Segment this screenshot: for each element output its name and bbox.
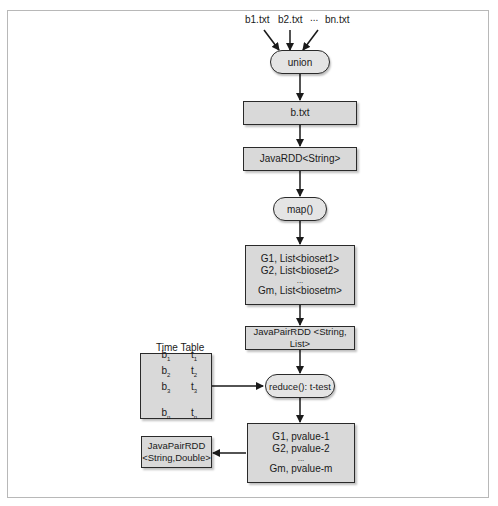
grouped-biosets-node: G1, List<bioset1> G2, List<bioset2> ... … (245, 245, 355, 305)
map-node: map() (273, 197, 327, 221)
time-table-t2: t2 (184, 365, 204, 381)
javapairrdd-node: JavaPairRDD <String, List> (245, 326, 355, 350)
reduce-label: reduce(): t-test (269, 381, 331, 392)
time-table-b3: b3 (148, 381, 184, 397)
javapairrdd-label: JavaPairRDD <String, List> (246, 326, 354, 350)
pvalues-node: G1, pvalue-1 G2, pvalue-2 ... Gm, pvalue… (247, 423, 355, 483)
javardd-label: JavaRDD<String> (260, 153, 341, 165)
reduce-node: reduce(): t-test (265, 374, 335, 398)
output-javapairrdd-node: JavaPairRDD <String,Double> (141, 436, 212, 468)
pvalues-line-m: Gm, pvalue-m (270, 463, 333, 475)
input-file-b2: b2.txt (278, 14, 302, 25)
union-node: union (270, 50, 330, 74)
pvalues-line-1: G1, pvalue-1 (272, 431, 329, 443)
union-label: union (288, 57, 312, 68)
time-table-b1: b1 (148, 349, 184, 365)
input-file-bn: bn.txt (325, 14, 349, 25)
time-table-t1: t1 (184, 349, 204, 365)
javardd-node: JavaRDD<String> (243, 147, 357, 171)
time-table-tn: tn (184, 407, 204, 423)
time-table-node: b1 t1 b2 t2 b3 t3 bn tn (140, 353, 212, 419)
map-label: map() (287, 204, 313, 215)
input-file-ellipsis: ... (310, 12, 318, 23)
output-line-1: JavaPairRDD (148, 440, 206, 452)
input-file-b1: b1.txt (245, 14, 269, 25)
grouped-line-ellipsis: ... (297, 277, 304, 285)
grouped-line-1: G1, List<bioset1> (261, 253, 339, 265)
output-line-2: <String,Double> (142, 452, 211, 464)
time-table-b2: b2 (148, 365, 184, 381)
grouped-line-m: Gm, List<biosetm> (258, 285, 342, 297)
time-table-grid: b1 t1 b2 t2 b3 t3 bn tn (148, 349, 204, 423)
pvalues-line-ellipsis: ... (298, 455, 305, 463)
btxt-label: b.txt (291, 107, 310, 119)
time-table-t3: t3 (184, 381, 204, 397)
time-table-bn: bn (148, 407, 184, 423)
btxt-node: b.txt (243, 101, 357, 125)
